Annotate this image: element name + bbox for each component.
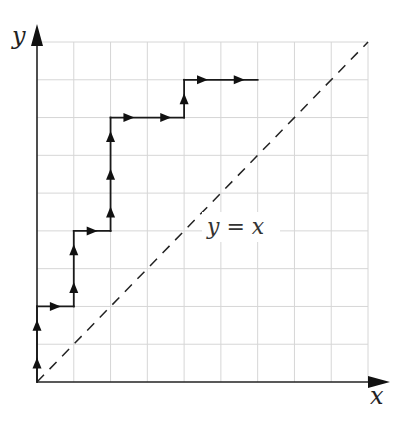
- arrow-up-icon: [180, 93, 189, 104]
- y-axis-label: y: [11, 22, 26, 50]
- arrow-right-icon: [123, 113, 134, 122]
- arrow-right-icon: [160, 113, 171, 122]
- arrow-up-icon: [106, 131, 115, 142]
- diagonal-label: y = x: [206, 214, 265, 239]
- arrow-right-icon: [87, 226, 98, 235]
- x-axis-label: x: [370, 382, 384, 410]
- diagonal-label-group: y = x: [202, 212, 280, 242]
- arrow-up-icon: [33, 358, 42, 369]
- arrow-right-icon: [234, 75, 245, 84]
- arrow-right-icon: [50, 302, 61, 311]
- arrow-up-icon: [106, 169, 115, 180]
- lattice-path-diagram: x y y = x: [0, 0, 404, 425]
- y-axis-arrowhead-icon: [31, 24, 43, 46]
- arrow-up-icon: [106, 207, 115, 218]
- arrow-up-icon: [69, 282, 78, 293]
- arrow-up-icon: [69, 244, 78, 255]
- arrow-up-icon: [33, 320, 42, 331]
- arrow-right-icon: [197, 75, 208, 84]
